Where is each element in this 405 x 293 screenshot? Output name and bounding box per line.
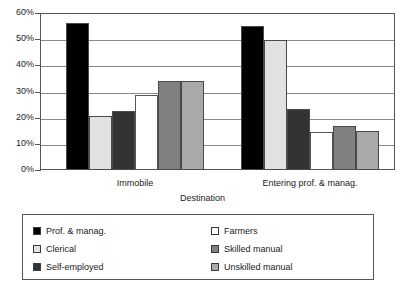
bar [333, 126, 356, 170]
bar [310, 132, 333, 170]
legend-swatch-icon [33, 263, 41, 271]
y-axis-tick-mark [35, 92, 41, 93]
legend-label: Prof. & manag. [46, 226, 106, 236]
legend-column-left: Prof. & manag.ClericalSelf-employed [33, 222, 193, 276]
legend-swatch-icon [211, 245, 219, 253]
bar [356, 131, 379, 170]
x-axis-category-label: Entering prof. & manag. [230, 178, 390, 188]
bar [89, 116, 112, 170]
legend-swatch-icon [33, 227, 41, 235]
legend-label: Skilled manual [224, 244, 283, 254]
legend-swatch-icon [211, 227, 219, 235]
y-axis-tick-label: 50% [0, 34, 34, 43]
bar [264, 40, 287, 170]
y-axis-tick-mark [35, 65, 41, 66]
y-axis-tick-mark [35, 170, 41, 171]
legend-swatch-icon [33, 245, 41, 253]
bar [112, 111, 135, 170]
bar [66, 23, 89, 170]
legend-item[interactable]: Self-employed [33, 258, 193, 275]
bar [135, 95, 158, 170]
legend-label: Self-employed [46, 262, 104, 272]
legend-item[interactable]: Unskilled manual [211, 258, 371, 275]
x-axis-title: Destination [0, 193, 405, 203]
legend-item[interactable]: Skilled manual [211, 240, 371, 257]
y-axis-tick-mark [35, 144, 41, 145]
legend-item[interactable]: Prof. & manag. [33, 222, 193, 239]
y-axis-tick-label: 20% [0, 113, 34, 122]
bars-layer [40, 13, 395, 170]
legend-column-right: FarmersSkilled manualUnskilled manual [211, 222, 371, 276]
bar [287, 109, 310, 170]
y-axis-tick-label: 0% [0, 165, 34, 174]
y-axis-tick-label: 10% [0, 139, 34, 148]
legend-item[interactable]: Farmers [211, 222, 371, 239]
x-axis-category-label: Immobile [55, 178, 215, 188]
legend-swatch-icon [211, 263, 219, 271]
y-axis-tick-label: 40% [0, 60, 34, 69]
y-axis-tick-mark [35, 39, 41, 40]
legend-label: Unskilled manual [224, 262, 293, 272]
legend-label: Clerical [46, 244, 76, 254]
y-axis-tick-label: 60% [0, 8, 34, 17]
y-axis-tick-mark [35, 13, 41, 14]
legend-label: Farmers [224, 226, 258, 236]
y-axis-tick-label: 30% [0, 87, 34, 96]
bar [181, 81, 204, 170]
y-axis-tick-mark [35, 118, 41, 119]
legend: Prof. & manag.ClericalSelf-employed Farm… [22, 214, 374, 280]
legend-item[interactable]: Clerical [33, 240, 193, 257]
bar [241, 26, 264, 170]
bar [158, 81, 181, 170]
